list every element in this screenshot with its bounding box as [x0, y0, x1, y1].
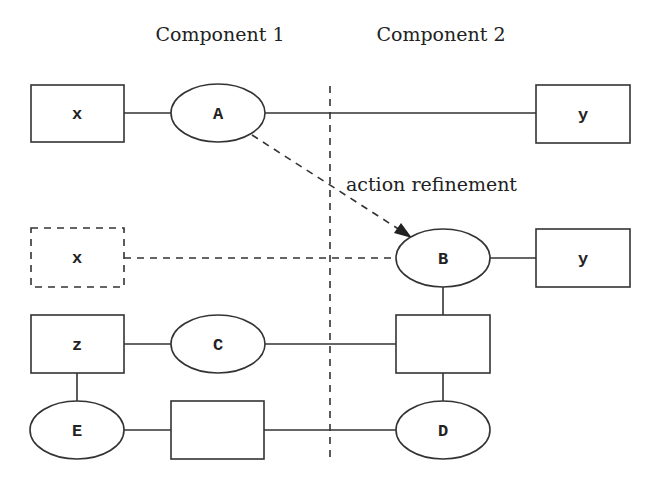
- node-x-dashed-label: x: [72, 249, 82, 268]
- node-d-label: D: [438, 422, 448, 441]
- node-y-label: y: [578, 106, 588, 125]
- component-2-header: Component 2: [376, 23, 505, 45]
- arrowhead-icon: [394, 223, 412, 238]
- node-c-label: C: [213, 336, 223, 355]
- refinement-label: action refinement: [346, 173, 517, 195]
- node-z-label: z: [72, 336, 82, 355]
- node-x-label: x: [72, 105, 82, 124]
- node-a-label: A: [213, 105, 224, 124]
- node-e-label: E: [72, 422, 82, 441]
- component-1-header: Component 1: [155, 23, 284, 45]
- node-empty-box-left: [171, 401, 264, 459]
- diagram: Component 1 Component 2 x A y action ref…: [0, 0, 653, 482]
- node-empty-box-right: [396, 315, 490, 373]
- node-b-label: B: [438, 250, 448, 269]
- node-y2-label: y: [578, 250, 588, 269]
